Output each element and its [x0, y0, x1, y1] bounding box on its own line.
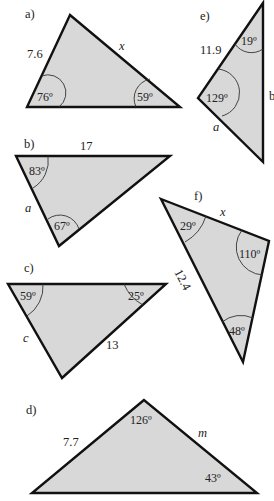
- triangle-b-label: b): [24, 137, 34, 151]
- triangle-a-label: a): [25, 7, 35, 21]
- side-d-right: m: [198, 426, 207, 440]
- triangle-f: f) x 12.4 29º 110º 48º: [161, 189, 269, 362]
- angle-d-top: 126º: [130, 413, 152, 427]
- triangle-b: b) 17 a 83º 67º: [16, 137, 170, 246]
- side-f-left: 12.4: [171, 267, 194, 294]
- triangle-c-label: c): [24, 261, 34, 275]
- triangle-a: a) 7.6 x 76º 59º: [25, 7, 180, 107]
- triangle-e-label: e): [200, 9, 210, 23]
- triangle-c: c) c 13 59º 25º: [8, 261, 166, 378]
- angle-a-bottom-right: 59º: [137, 90, 153, 104]
- side-b-left: a: [25, 201, 31, 215]
- angle-f-bottom: 48º: [229, 324, 245, 338]
- side-c-left: c: [23, 331, 29, 345]
- triangle-e: e) 11.9 a b 19º 129º: [198, 3, 274, 162]
- side-c-right: 13: [106, 338, 119, 352]
- angle-c-top-left: 59º: [20, 289, 36, 303]
- side-f-top: x: [219, 205, 226, 219]
- side-d-left: 7.7: [63, 435, 79, 449]
- triangle-f-label: f): [194, 189, 202, 203]
- side-e-right: b: [269, 89, 274, 103]
- side-e-upper-left: 11.9: [200, 43, 221, 57]
- angle-b-bottom: 67º: [54, 219, 70, 233]
- angle-f-top-left: 29º: [180, 219, 196, 233]
- side-e-lower-left: a: [213, 120, 219, 134]
- triangles-diagram: a) 7.6 x 76º 59º e) 11.9 a b 19º 129º b)…: [0, 0, 274, 501]
- angle-e-top: 19º: [241, 34, 257, 48]
- angle-e-left: 129º: [206, 91, 228, 105]
- triangle-d-label: d): [26, 403, 36, 417]
- angle-c-top-right: 25º: [128, 289, 144, 303]
- triangle-d: d) 7.7 m 126º 43º: [26, 400, 257, 493]
- triangle-e-shape: [198, 3, 263, 162]
- side-a-left: 7.6: [27, 47, 43, 61]
- side-b-top: 17: [80, 139, 93, 153]
- angle-a-bottom-left: 76º: [37, 90, 53, 104]
- angle-d-bottom-right: 43º: [205, 471, 221, 485]
- angle-b-top-left: 83º: [29, 164, 45, 178]
- angle-f-right: 110º: [239, 247, 261, 261]
- side-a-right: x: [118, 39, 125, 53]
